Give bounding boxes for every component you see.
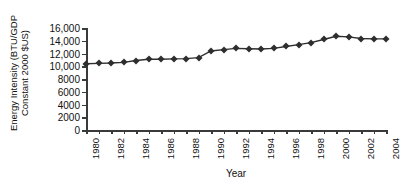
x-tick (299, 130, 301, 134)
x-tick-label: 1982 (115, 138, 126, 159)
x-tick-label: 1992 (240, 138, 251, 159)
x-tick-label: 1980 (90, 138, 101, 159)
x-tick (149, 130, 151, 134)
x-tick (99, 130, 101, 134)
x-tick (211, 130, 213, 134)
x-tick (161, 130, 163, 134)
y-tick-label: 14,000 (49, 35, 80, 46)
x-tick-label: 1984 (140, 138, 151, 159)
x-tick-label: 1996 (290, 138, 301, 159)
x-tick (136, 130, 138, 134)
x-tick-label: 2002 (365, 138, 376, 159)
x-tick-label: 1994 (265, 138, 276, 159)
x-tick (261, 130, 263, 134)
x-tick (336, 130, 338, 134)
x-tick-label: 2000 (340, 138, 351, 159)
y-tick-label: 10,000 (49, 61, 80, 72)
x-tick (199, 130, 201, 134)
x-tick (224, 130, 226, 134)
x-tick-label: 1990 (215, 138, 226, 159)
x-tick-label: 1986 (165, 138, 176, 159)
x-tick (324, 130, 326, 134)
plot-area: 0200040006000800010,00012,00014,00016,00… (86, 28, 386, 130)
x-tick (249, 130, 251, 134)
y-axis-title-line-1: Energy Intensity (BTU/GDP (8, 15, 19, 131)
x-tick (349, 130, 351, 134)
y-tick-label: 2000 (58, 112, 80, 123)
x-tick (311, 130, 313, 134)
y-tick-label: 0 (74, 125, 80, 136)
x-tick (236, 130, 238, 134)
series-polyline (86, 28, 386, 130)
y-tick-label: 4000 (58, 99, 80, 110)
x-tick-label: 2004 (390, 138, 401, 159)
y-tick-label: 6000 (58, 86, 80, 97)
x-tick (386, 130, 388, 134)
x-tick (274, 130, 276, 134)
y-axis-title-line-2: Constant 2000 $US) (19, 30, 30, 116)
x-tick (361, 130, 363, 134)
x-tick-label: 1988 (190, 138, 201, 159)
x-tick (174, 130, 176, 134)
x-tick (186, 130, 188, 134)
x-axis-title: Year (86, 168, 386, 179)
x-tick-label: 1998 (315, 138, 326, 159)
y-tick-label: 8000 (58, 74, 80, 85)
y-axis-title: Energy Intensity (BTU/GDP Constant 2000 … (0, 0, 46, 150)
x-tick (374, 130, 376, 134)
x-tick (86, 130, 88, 134)
x-tick (111, 130, 113, 134)
x-tick (286, 130, 288, 134)
y-tick-label: 12,000 (49, 48, 80, 59)
y-tick-label: 16,000 (49, 23, 80, 34)
x-tick (124, 130, 126, 134)
